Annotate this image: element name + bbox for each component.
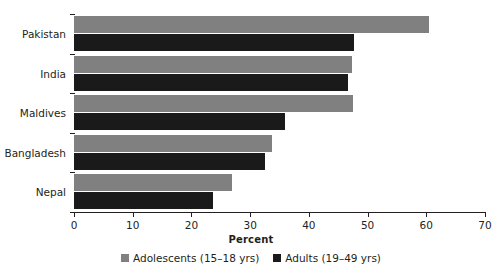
x-axis-tick (133, 212, 134, 217)
x-axis-tick-label: 40 (294, 219, 324, 231)
legend-swatch-icon (273, 254, 281, 262)
bar-group (74, 95, 485, 135)
legend-label: Adolescents (15–18 yrs) (133, 252, 259, 264)
x-axis-tick-label: 30 (235, 219, 265, 231)
category-label-india: India (0, 68, 66, 80)
bar-maldives-adults[interactable] (74, 113, 285, 130)
bar-nepal-adolescents[interactable] (74, 174, 232, 191)
bar-india-adolescents[interactable] (74, 56, 352, 73)
category-label-pakistan: Pakistan (0, 28, 66, 40)
x-axis-tick-label: 70 (470, 219, 500, 231)
legend-swatch-icon (121, 254, 129, 262)
x-axis-tick-label: 10 (118, 219, 148, 231)
x-axis-tick (309, 212, 310, 217)
category-label-bangladesh: Bangladesh (0, 147, 66, 159)
x-axis-tick-label: 0 (59, 219, 89, 231)
bar-group (74, 135, 485, 175)
x-axis-tick (368, 212, 369, 217)
bar-nepal-adults[interactable] (74, 192, 213, 209)
bar-maldives-adolescents[interactable] (74, 95, 353, 112)
x-axis-tick (426, 212, 427, 217)
x-axis-tick (191, 212, 192, 217)
bar-group (74, 174, 485, 214)
legend-item-adolescents[interactable]: Adolescents (15–18 yrs) (121, 252, 259, 264)
x-axis-line (74, 212, 485, 213)
bar-group (74, 56, 485, 96)
x-axis-tick-label: 50 (353, 219, 383, 231)
legend-label: Adults (19–49 yrs) (285, 252, 381, 264)
category-label-nepal: Nepal (0, 186, 66, 198)
plot-area (74, 14, 485, 212)
x-axis-tick-label: 60 (411, 219, 441, 231)
x-axis-tick-label: 20 (176, 219, 206, 231)
x-axis-tick (485, 212, 486, 217)
legend-item-adults[interactable]: Adults (19–49 yrs) (273, 252, 381, 264)
bar-pakistan-adults[interactable] (74, 34, 354, 51)
bar-pakistan-adolescents[interactable] (74, 16, 429, 33)
x-axis-tick (74, 212, 75, 217)
bar-group (74, 16, 485, 56)
x-axis-title: Percent (0, 234, 502, 245)
bar-chart: Pakistan India Maldives Bangladesh Nepal… (0, 0, 502, 272)
x-axis-tick (250, 212, 251, 217)
bar-india-adults[interactable] (74, 74, 348, 91)
bar-bangladesh-adults[interactable] (74, 153, 265, 170)
category-label-maldives: Maldives (0, 107, 66, 119)
bar-bangladesh-adolescents[interactable] (74, 135, 272, 152)
chart-legend: Adolescents (15–18 yrs) Adults (19–49 yr… (0, 252, 502, 264)
